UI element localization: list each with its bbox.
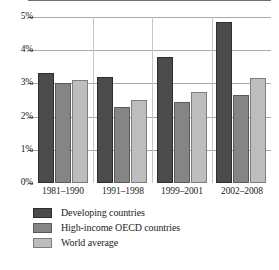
bar	[157, 57, 173, 183]
bar	[233, 95, 249, 183]
group-separator	[152, 17, 153, 183]
x-tick-label: 1981–1990	[33, 186, 93, 196]
group-separator	[212, 17, 213, 183]
legend-swatch-icon	[33, 223, 52, 233]
y-tick-label: 3%	[3, 78, 33, 88]
y-tick-label: 4%	[3, 45, 33, 55]
bar-chart-figure: 0%1%2%3%4%5% 1981–19901991–19981999–2001…	[0, 0, 279, 270]
legend-label: World average	[61, 237, 118, 248]
bar	[97, 77, 113, 183]
legend-label: Developing countries	[61, 207, 145, 218]
y-tick-label: 5%	[3, 12, 33, 22]
x-tick-label: 2002–2008	[212, 186, 272, 196]
chart-legend: Developing countriesHigh-income OECD cou…	[33, 205, 273, 250]
legend-item: World average	[33, 235, 273, 250]
legend-label: High-income OECD countries	[61, 222, 180, 233]
y-tick-label: 0%	[3, 178, 33, 188]
bar	[72, 80, 88, 183]
bar	[114, 107, 130, 183]
x-tick-label: 1991–1998	[93, 186, 153, 196]
bar	[216, 22, 232, 183]
bar	[191, 92, 207, 183]
legend-item: High-income OECD countries	[33, 220, 273, 235]
bar	[174, 102, 190, 183]
legend-item: Developing countries	[33, 205, 273, 220]
x-axis-baseline	[28, 0, 271, 1]
bar	[38, 73, 54, 183]
bar	[55, 83, 71, 183]
y-tick-label: 1%	[3, 145, 33, 155]
x-tick-label: 1999–2001	[152, 186, 212, 196]
bar	[250, 78, 266, 183]
group-separator	[93, 17, 94, 183]
y-tick-label: 2%	[3, 112, 33, 122]
bar	[131, 100, 147, 183]
legend-swatch-icon	[33, 208, 52, 218]
legend-swatch-icon	[33, 238, 52, 248]
plot-area: 0%1%2%3%4%5% 1981–19901991–19981999–2001…	[0, 0, 279, 200]
